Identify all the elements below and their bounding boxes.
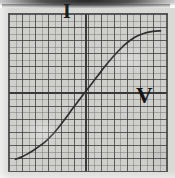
figure-screenshot: I V [0,0,175,178]
x-axis-label: V [136,84,153,107]
y-axis-label: I [63,1,71,21]
